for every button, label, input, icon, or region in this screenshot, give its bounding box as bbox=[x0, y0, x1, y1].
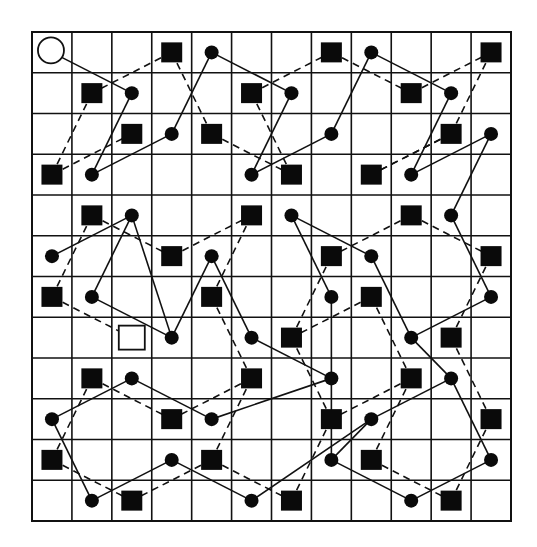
square-open-icon bbox=[119, 326, 145, 350]
filled-square-icon bbox=[481, 409, 502, 429]
filled-square-icon bbox=[161, 42, 182, 62]
filled-square-icon bbox=[401, 368, 422, 388]
filled-dot-icon bbox=[364, 45, 378, 59]
filled-square-icon bbox=[161, 246, 182, 266]
filled-dot-icon bbox=[85, 168, 99, 182]
filled-dot-icon bbox=[484, 127, 498, 141]
filled-dot-icon bbox=[205, 249, 219, 263]
filled-square-icon bbox=[441, 124, 462, 144]
filled-dot-icon bbox=[165, 331, 179, 345]
filled-square-icon bbox=[81, 83, 102, 103]
filled-square-icon bbox=[121, 491, 142, 511]
filled-dot-icon bbox=[125, 371, 139, 385]
filled-dot-icon bbox=[125, 208, 139, 222]
filled-dot-icon bbox=[284, 208, 298, 222]
filled-dot-icon bbox=[364, 249, 378, 263]
filled-dot-icon bbox=[324, 453, 338, 467]
filled-square-icon bbox=[481, 42, 502, 62]
filled-square-icon bbox=[321, 42, 342, 62]
filled-square-icon bbox=[321, 409, 342, 429]
filled-dot-icon bbox=[444, 208, 458, 222]
filled-dot-icon bbox=[245, 331, 259, 345]
filled-dot-icon bbox=[205, 45, 219, 59]
filled-dot-icon bbox=[404, 494, 418, 508]
filled-dot-icon bbox=[324, 290, 338, 304]
filled-square-icon bbox=[241, 83, 262, 103]
grid-lines bbox=[32, 32, 511, 521]
filled-dot-icon bbox=[284, 86, 298, 100]
filled-square-icon bbox=[201, 124, 222, 144]
filled-square-icon bbox=[41, 165, 62, 185]
filled-square-icon bbox=[241, 368, 262, 388]
filled-square-icon bbox=[481, 246, 502, 266]
filled-square-icon bbox=[281, 491, 302, 511]
filled-dot-icon bbox=[324, 127, 338, 141]
filled-square-icon bbox=[201, 287, 222, 307]
filled-dot-icon bbox=[245, 494, 259, 508]
filled-square-icon bbox=[281, 328, 302, 348]
filled-dot-icon bbox=[125, 86, 139, 100]
filled-dot-icon bbox=[364, 412, 378, 426]
filled-dot-icon bbox=[165, 453, 179, 467]
filled-dot-icon bbox=[484, 453, 498, 467]
filled-square-icon bbox=[241, 205, 262, 225]
filled-square-icon bbox=[401, 83, 422, 103]
filled-square-icon bbox=[81, 205, 102, 225]
filled-square-icon bbox=[281, 165, 302, 185]
filled-square-icon bbox=[361, 287, 382, 307]
filled-square-icon bbox=[401, 205, 422, 225]
filled-dot-icon bbox=[165, 127, 179, 141]
filled-dot-icon bbox=[85, 494, 99, 508]
filled-square-icon bbox=[41, 450, 62, 470]
filled-dot-icon bbox=[45, 412, 59, 426]
grid-diagram bbox=[0, 0, 537, 547]
filled-square-icon bbox=[321, 246, 342, 266]
filled-dot-icon bbox=[245, 168, 259, 182]
filled-square-icon bbox=[41, 287, 62, 307]
filled-dot-icon bbox=[404, 168, 418, 182]
filled-square-icon bbox=[441, 491, 462, 511]
filled-dot-icon bbox=[484, 290, 498, 304]
filled-square-icon bbox=[361, 165, 382, 185]
filled-dot-icon bbox=[444, 86, 458, 100]
filled-square-icon bbox=[201, 450, 222, 470]
filled-square-icon bbox=[161, 409, 182, 429]
filled-square-icon bbox=[81, 368, 102, 388]
filled-square-icon bbox=[361, 450, 382, 470]
circle-open-icon bbox=[38, 37, 64, 63]
filled-dot-icon bbox=[324, 371, 338, 385]
filled-dot-icon bbox=[45, 249, 59, 263]
filled-square-icon bbox=[121, 124, 142, 144]
filled-square-icon bbox=[441, 328, 462, 348]
filled-dot-icon bbox=[85, 290, 99, 304]
filled-dot-icon bbox=[404, 331, 418, 345]
filled-dot-icon bbox=[444, 371, 458, 385]
filled-dot-icon bbox=[205, 412, 219, 426]
